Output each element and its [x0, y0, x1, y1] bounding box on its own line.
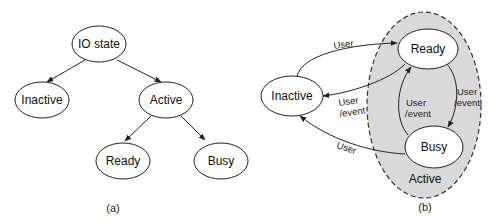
caption-b: (b)	[418, 201, 431, 213]
node-ready: Ready	[96, 143, 150, 179]
edge-root-inactive	[47, 60, 85, 82]
node-label: Busy	[421, 140, 448, 154]
edge-label: /event	[339, 104, 367, 119]
node-label: Active	[150, 93, 183, 107]
edge-label: User	[333, 37, 354, 51]
edge-active-ready	[125, 116, 151, 141]
node-ready-b: Ready	[398, 29, 458, 69]
node-active: Active	[139, 82, 193, 118]
node-busy: Busy	[194, 143, 248, 179]
active-group-label: Active	[409, 172, 442, 186]
node-inactive: Inactive	[15, 82, 69, 118]
node-label: Inactive	[21, 93, 63, 107]
node-busy-b: Busy	[405, 126, 463, 168]
node-label: Ready	[106, 154, 141, 168]
node-label: Ready	[411, 42, 446, 56]
diagram-canvas: IO state Inactive Active Ready Busy (a) …	[0, 0, 492, 224]
edge-label: /event	[454, 97, 480, 108]
node-label: IO state	[78, 37, 120, 51]
caption-a: (a)	[106, 202, 119, 214]
diagram-a: IO state Inactive Active Ready Busy (a)	[15, 26, 248, 214]
edge-label: User	[457, 86, 477, 97]
diagram-b: Active User User /event User /event User…	[261, 12, 481, 213]
node-io-state: IO state	[72, 26, 126, 62]
edge-root-active	[117, 60, 161, 82]
edge-label: User	[335, 139, 357, 156]
node-label: Inactive	[271, 89, 313, 103]
edge-active-busy	[181, 116, 205, 140]
node-label: Busy	[208, 154, 235, 168]
edge-label: User	[406, 97, 426, 108]
node-inactive-b: Inactive	[261, 76, 323, 116]
edge-label: /event	[405, 108, 431, 119]
